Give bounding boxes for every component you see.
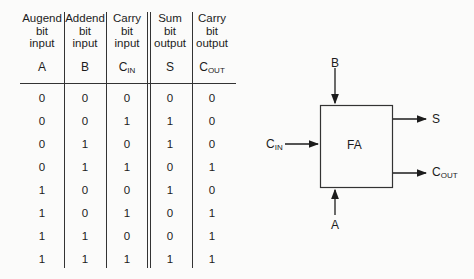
fa-label-text: FA	[347, 138, 362, 152]
cout-label: COUT	[432, 165, 458, 180]
cout-subscript: OUT	[441, 171, 458, 180]
b-label-text: B	[331, 56, 339, 70]
a-label: A	[331, 218, 339, 232]
cin-label: CIN	[266, 137, 283, 152]
full-adder-diagram	[0, 0, 474, 279]
cin-subscript: IN	[275, 143, 283, 152]
s-label: S	[432, 112, 440, 126]
cout-label-text: C	[432, 165, 441, 179]
s-label-text: S	[432, 112, 440, 126]
cin-label-text: C	[266, 137, 275, 151]
fa-label: FA	[347, 138, 362, 152]
a-label-text: A	[331, 218, 339, 232]
b-label: B	[331, 56, 339, 70]
